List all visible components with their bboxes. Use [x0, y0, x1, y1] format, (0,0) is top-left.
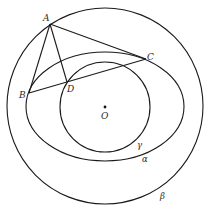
segment-ac — [50, 24, 146, 59]
label-alpha: α — [142, 154, 148, 164]
label-o: O — [101, 111, 109, 121]
label-b: B — [18, 90, 26, 100]
center-point-o — [104, 106, 107, 109]
label-c: C — [147, 52, 154, 62]
label-beta: β — [159, 191, 165, 201]
geometry-diagram: A B C D O γ α β — [0, 0, 205, 216]
segment-bc — [29, 59, 146, 93]
label-a: A — [42, 13, 50, 23]
label-gamma: γ — [137, 140, 143, 150]
segment-ad — [50, 24, 67, 82]
label-d: D — [66, 84, 74, 94]
segment-ab — [29, 24, 50, 93]
